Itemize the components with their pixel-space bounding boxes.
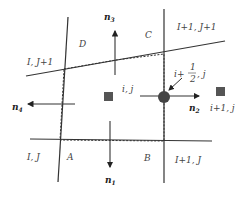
face-label-denominator: 2 <box>189 74 196 84</box>
cell-label-top-left: I, J+1 <box>26 57 53 67</box>
face-label-numerator: 1 <box>190 62 196 72</box>
face-pointer-arrow <box>169 78 182 90</box>
cell-label-bottom-right: I+1, J <box>174 155 203 165</box>
neighbor-center-node <box>216 87 225 96</box>
corner-label-a: A <box>66 152 74 162</box>
normal-label-n1: n1 <box>105 175 116 186</box>
face-label-suffix: , j <box>197 69 206 79</box>
finite-volume-diagram: D C A B I, J+1 I+1, J+1 I, J I+1, J i, j… <box>0 0 247 200</box>
cell-label-bottom-left: I, J <box>26 152 41 162</box>
center-label-current: i, j <box>122 84 134 94</box>
corner-label-c: C <box>145 30 152 40</box>
cell-label-top-right: I+1, J+1 <box>176 22 216 32</box>
normal-label-n2: n2 <box>189 103 200 114</box>
corner-label-d: D <box>78 39 86 49</box>
normal-label-n4: n4 <box>12 102 23 113</box>
center-label-neighbor: i+1, j <box>210 103 235 113</box>
cell-center-node <box>104 92 113 101</box>
face-center-node <box>158 91 170 103</box>
normal-label-n3: n3 <box>104 12 115 23</box>
corner-label-b: B <box>143 153 151 163</box>
face-label-prefix: i+ <box>174 69 184 79</box>
